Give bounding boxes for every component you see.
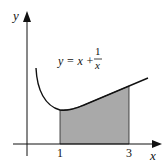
y-axis-label: y bbox=[11, 8, 19, 23]
equation-lhs: y = x + bbox=[57, 54, 94, 68]
tick-label-1: 1 bbox=[57, 146, 63, 160]
x-axis-arrow-icon bbox=[152, 140, 162, 148]
equation-numerator: 1 bbox=[95, 45, 101, 57]
x-axis-label: x bbox=[149, 148, 156, 163]
area-under-curve-diagram: y x 1 3 y = x + 1 x bbox=[0, 0, 168, 166]
tick-label-3: 3 bbox=[126, 146, 132, 160]
y-axis-arrow-icon bbox=[23, 11, 31, 22]
equation-denominator: x bbox=[94, 59, 100, 71]
shaded-region bbox=[60, 86, 129, 144]
